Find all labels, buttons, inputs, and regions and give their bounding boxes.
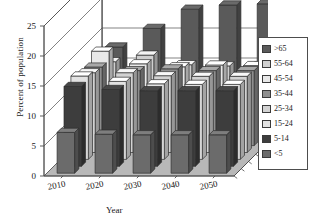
- y-tick-label: 15: [20, 82, 36, 91]
- bar-face-front: [57, 132, 75, 173]
- bar-face-side: [234, 87, 238, 167]
- bar-face-side: [75, 128, 79, 173]
- y-tick-label: 10: [20, 112, 36, 121]
- legend-item[interactable]: 35-44: [262, 86, 305, 101]
- legend-swatch-icon: [262, 75, 271, 83]
- depth-tick-mark: [241, 169, 244, 171]
- bar-face-front: [95, 134, 113, 173]
- bar-face-top: [140, 87, 162, 91]
- legend-swatch-icon: [262, 150, 271, 158]
- bar-5-2030: [133, 131, 155, 174]
- bar-face-top: [147, 80, 169, 84]
- x-axis-title: Year: [106, 205, 123, 215]
- bar-face-top: [85, 63, 107, 67]
- bar-face-side: [247, 72, 251, 152]
- bar-5-2010: [57, 128, 79, 173]
- bar-face-top: [130, 60, 152, 64]
- bar-face-front: [171, 135, 189, 173]
- y-tick-label: 0: [20, 172, 36, 181]
- bar-face-top: [116, 69, 138, 73]
- bar-face-side: [227, 131, 231, 174]
- legend-item-label: <5: [274, 150, 283, 158]
- bar-face-side: [164, 80, 168, 160]
- bar-face-top: [95, 130, 117, 134]
- bar-5-2040: [171, 131, 193, 174]
- legend-item-label: 35-44: [274, 90, 293, 98]
- legend-item-label: 25-34: [274, 105, 293, 113]
- legend-item-label: >65: [274, 45, 287, 53]
- legend-swatch-icon: [262, 120, 271, 128]
- bar-face-side: [158, 87, 162, 167]
- bar-face-front: [209, 135, 227, 173]
- legend-item[interactable]: 5-14: [262, 131, 305, 146]
- bar-face-top: [209, 131, 231, 135]
- legend-swatch-icon: [262, 60, 271, 68]
- y-tick-label: 20: [20, 52, 36, 61]
- legend-item[interactable]: 45-54: [262, 71, 305, 86]
- legend-item-label: 45-54: [274, 75, 293, 83]
- bar-face-side: [202, 80, 206, 159]
- bar-5-2050: [209, 131, 231, 174]
- bar-face-top: [199, 67, 221, 71]
- bar-face-top: [171, 131, 193, 135]
- bar-face-top: [219, 1, 241, 5]
- legend-swatch-icon: [262, 135, 271, 143]
- legend-swatch-icon: [262, 105, 271, 113]
- bar-face-top: [237, 67, 259, 71]
- bar-face-top: [57, 128, 79, 132]
- bar-face-top: [178, 87, 200, 91]
- bar-face-side: [151, 131, 155, 174]
- y-tick-label: 5: [20, 142, 36, 151]
- legend-swatch-icon: [262, 90, 271, 98]
- bar-face-top: [154, 72, 176, 76]
- bar-5-2020: [95, 130, 117, 173]
- bar-face-top: [105, 43, 127, 47]
- bar-face-top: [71, 72, 93, 76]
- bar-face-side: [82, 82, 86, 166]
- bar-face-top: [109, 77, 131, 81]
- bar-face-top: [161, 65, 183, 69]
- bar-face-top: [230, 72, 252, 76]
- legend-swatch-icon: [262, 45, 271, 53]
- bar-face-top: [64, 82, 86, 86]
- depth-tick-mark: [234, 176, 237, 178]
- bar-face-top: [136, 51, 158, 55]
- legend: >6555-6445-5435-4425-3415-245-14<5: [258, 37, 308, 170]
- bar-face-top: [192, 72, 214, 76]
- bar-face-top: [143, 24, 165, 28]
- legend-item[interactable]: 15-24: [262, 116, 305, 131]
- plot-area: 051015202520102020203020402050: [0, 0, 268, 224]
- bar-face-side: [196, 87, 200, 167]
- legend-item-label: 5-14: [274, 135, 289, 143]
- depth-tick-mark: [249, 162, 252, 164]
- bar-face-side: [88, 72, 92, 160]
- legend-item[interactable]: <5: [262, 146, 305, 161]
- bar-face-side: [240, 80, 244, 159]
- chart-figure: Percent of population 051015202520102020…: [0, 0, 312, 224]
- bar-face-top: [92, 47, 114, 51]
- bar-face-top: [223, 80, 245, 84]
- bar-face-side: [120, 85, 124, 166]
- legend-item[interactable]: 55-64: [262, 56, 305, 71]
- bar-face-side: [126, 77, 130, 159]
- bar-face-side: [189, 131, 193, 174]
- bar-face-side: [113, 130, 117, 173]
- bar-face-top: [102, 85, 124, 89]
- bar-face-top: [133, 131, 155, 135]
- legend-item[interactable]: 25-34: [262, 101, 305, 116]
- y-tick-label: 25: [20, 22, 36, 31]
- bar-face-top: [206, 61, 228, 65]
- legend-item-label: 15-24: [274, 120, 293, 128]
- bar-face-top: [185, 80, 207, 84]
- bar-face-top: [216, 87, 238, 91]
- legend-item[interactable]: >65: [262, 41, 305, 56]
- chart-canvas: [0, 0, 268, 224]
- legend-item-label: 55-64: [274, 60, 293, 68]
- bar-face-top: [181, 5, 203, 9]
- bar-face-front: [133, 135, 151, 173]
